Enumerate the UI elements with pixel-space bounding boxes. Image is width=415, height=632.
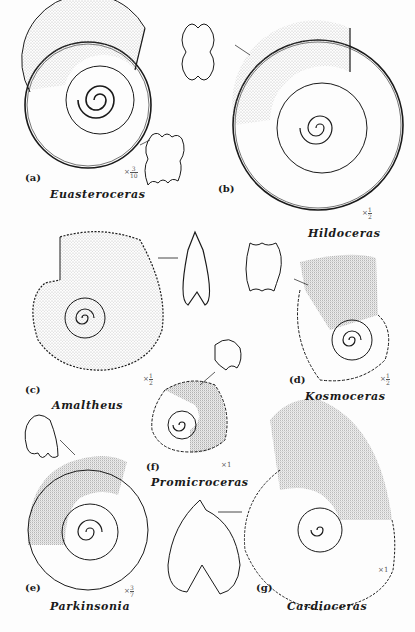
panel-a-label: (a) — [25, 172, 41, 183]
panel-c-genus: Amaltheus — [52, 399, 123, 412]
panel-d-scale: ×12 — [380, 373, 390, 386]
ammonite-b-drawing — [182, 20, 403, 210]
panel-f-genus: Promicroceras — [151, 476, 249, 489]
ammonite-plate-illustration — [0, 0, 415, 632]
panel-g-scale: ×1 — [378, 566, 388, 574]
panel-f-scale: ×1 — [221, 461, 231, 469]
ammonite-c-drawing — [33, 232, 210, 370]
panel-g-label: (g) — [256, 582, 272, 593]
ammonite-a-drawing — [22, 0, 184, 185]
panel-d-label: (d) — [289, 374, 305, 385]
panel-c-label: (c) — [25, 384, 41, 395]
panel-f-label: (f) — [146, 461, 160, 472]
panel-e-label: (e) — [25, 582, 41, 593]
ammonite-e-drawing — [25, 415, 148, 590]
panel-e-genus: Parkinsonia — [50, 600, 130, 613]
panel-a-scale: ×310 — [124, 166, 138, 179]
panel-g-genus: Cardioceras — [287, 600, 367, 613]
panel-e-scale: ×37 — [124, 585, 134, 598]
ammonite-d-drawing — [246, 243, 389, 381]
panel-b-label: (b) — [218, 183, 234, 194]
panel-b-scale: ×12 — [362, 207, 372, 220]
figure-page: (a) Euasteroceras ×310 (b) Hildoceras ×1… — [0, 0, 415, 632]
panel-d-genus: Kosmoceras — [305, 390, 386, 403]
panel-b-genus: Hildoceras — [308, 227, 381, 240]
panel-c-scale: ×12 — [143, 373, 153, 386]
panel-a-genus: Euasteroceras — [50, 188, 146, 201]
ammonite-f-drawing — [152, 340, 241, 453]
